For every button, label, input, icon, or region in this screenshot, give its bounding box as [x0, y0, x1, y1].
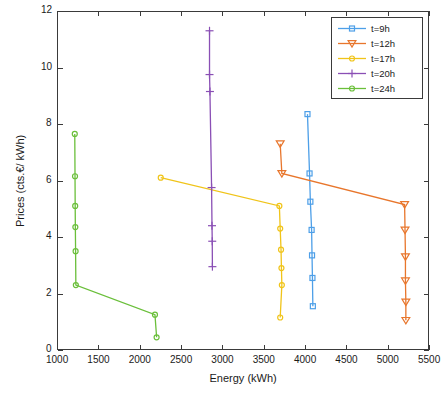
data-point: [206, 27, 214, 35]
y-tickmark-right: [424, 181, 429, 182]
x-tickmark-top: [140, 11, 141, 16]
x-tick-label: 2000: [129, 354, 151, 365]
chart-figure: 1000150020002500300035004000450050005500…: [0, 0, 442, 394]
x-tickmark: [305, 345, 306, 350]
x-tickmark: [388, 345, 389, 350]
x-tickmark: [346, 345, 347, 350]
y-tick-label: 4: [46, 230, 52, 241]
legend-marker-0: [337, 23, 367, 34]
legend-marker-3: [337, 68, 367, 79]
legend: t=9h t=12h t=17h t=20h t=24h: [331, 17, 423, 99]
legend-entry-3: t=20h: [337, 68, 395, 79]
x-tickmark-top: [429, 11, 430, 16]
x-tickmark-top: [264, 11, 265, 16]
x-tickmark-top: [305, 11, 306, 16]
x-tick-label: 5500: [418, 354, 440, 365]
x-tick-label: 4500: [335, 354, 357, 365]
x-tickmark: [181, 345, 182, 350]
legend-entry-2: t=17h: [337, 53, 395, 64]
x-tickmark-top: [98, 11, 99, 16]
x-tickmark-top: [181, 11, 182, 16]
series-t-9h: [305, 112, 315, 309]
x-tick-label: 3500: [253, 354, 275, 365]
series-line: [75, 134, 157, 337]
x-tickmark: [222, 345, 223, 350]
x-tickmark-top: [346, 11, 347, 16]
y-tick-label: 8: [46, 117, 52, 128]
x-tick-label: 3000: [211, 354, 233, 365]
x-tickmark: [140, 345, 141, 350]
y-tick-label: 6: [46, 174, 52, 185]
legend-marker-2: [337, 53, 367, 64]
y-tickmark-right: [424, 68, 429, 69]
legend-marker-4: [337, 83, 367, 94]
y-tickmark: [58, 68, 63, 69]
x-tick-label: 5000: [377, 354, 399, 365]
y-tickmark-right: [424, 237, 429, 238]
data-point: [208, 263, 216, 271]
legend-entry-4: t=24h: [337, 83, 395, 94]
series-line: [280, 144, 406, 321]
legend-label-4: t=24h: [371, 83, 395, 94]
y-tickmark: [58, 181, 63, 182]
legend-entry-1: t=12h: [337, 38, 395, 49]
legend-marker-1: [337, 38, 367, 49]
y-tick-label: 0: [46, 343, 52, 354]
y-tickmark: [58, 350, 63, 351]
y-tick-label: 12: [41, 4, 52, 15]
legend-label-2: t=17h: [371, 53, 395, 64]
data-point: [348, 70, 356, 78]
y-axis-title: Prices (cts.€/ kWh): [14, 134, 26, 226]
data-point: [206, 88, 214, 96]
legend-label-3: t=20h: [371, 68, 395, 79]
y-tickmark: [58, 124, 63, 125]
data-point: [208, 237, 216, 245]
y-tick-label: 2: [46, 287, 52, 298]
y-tickmark-right: [424, 350, 429, 351]
y-tickmark-right: [424, 11, 429, 12]
x-tick-label: 1000: [46, 354, 68, 365]
series-t-17h: [158, 175, 284, 320]
data-point: [206, 71, 214, 79]
series-line: [210, 31, 213, 267]
y-tick-label: 10: [41, 61, 52, 72]
legend-label-0: t=9h: [371, 23, 390, 34]
data-point: [208, 222, 216, 230]
x-tickmark-top: [388, 11, 389, 16]
x-axis-title: Energy (kWh): [210, 372, 277, 384]
x-tickmark: [98, 345, 99, 350]
series-t-24h: [72, 131, 159, 339]
y-tickmark: [58, 11, 63, 12]
x-tickmark: [429, 345, 430, 350]
legend-entry-0: t=9h: [337, 23, 390, 34]
y-tickmark: [58, 294, 63, 295]
series-line: [161, 178, 282, 318]
series-t-12h: [276, 141, 409, 324]
series-t-20h: [206, 27, 217, 271]
y-tickmark-right: [424, 124, 429, 125]
legend-label-1: t=12h: [371, 38, 395, 49]
x-tickmark-top: [222, 11, 223, 16]
x-tick-label: 1500: [87, 354, 109, 365]
x-tickmark: [264, 345, 265, 350]
y-tickmark-right: [424, 294, 429, 295]
x-tick-label: 2500: [170, 354, 192, 365]
x-tick-label: 4000: [294, 354, 316, 365]
y-tickmark: [58, 237, 63, 238]
